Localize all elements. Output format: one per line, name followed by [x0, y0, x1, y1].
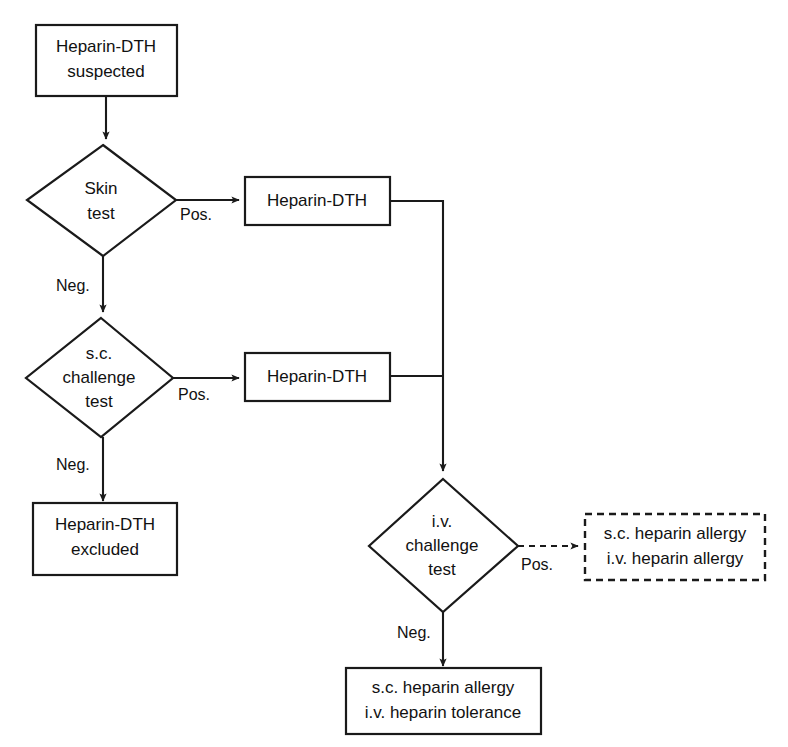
node-iv-challenge-test[interactable]: i.v. challenge test: [369, 479, 518, 612]
node-iv-pos-outcome[interactable]: s.c. heparin allergy i.v. heparin allerg…: [585, 514, 765, 580]
iv-challenge-label-line1: i.v.: [432, 512, 452, 531]
edge-dth1-to-trunk: [390, 201, 443, 375]
edge-label-iv-challenge-neg: Neg.: [397, 624, 431, 641]
start-label-line2: suspected: [67, 62, 145, 81]
edge-label-sc-challenge-neg: Neg.: [56, 456, 90, 473]
iv-neg-outcome-label-line2: i.v. heparin tolerance: [365, 703, 522, 722]
edge-label-iv-challenge-pos: Pos.: [521, 556, 553, 573]
iv-pos-outcome-label-line1: s.c. heparin allergy: [604, 524, 747, 543]
flowchart-graphic: Heparin-DTH suspected Skin test Heparin-…: [0, 0, 788, 747]
iv-neg-outcome-label-line1: s.c. heparin allergy: [372, 678, 515, 697]
skin-test-label-line1: Skin: [84, 179, 117, 198]
node-iv-neg-outcome[interactable]: s.c. heparin allergy i.v. heparin tolera…: [346, 668, 541, 734]
node-skin-pos-result[interactable]: Heparin-DTH: [245, 177, 390, 225]
iv-pos-outcome-label-line2: i.v. heparin allergy: [607, 549, 744, 568]
edge-dth2-to-iv-challenge: [390, 376, 443, 471]
node-sc-challenge-test[interactable]: s.c. challenge test: [26, 318, 173, 437]
sc-challenge-label-line3: test: [85, 392, 113, 411]
sc-pos-result-label: Heparin-DTH: [267, 367, 367, 386]
sc-challenge-label-line2: challenge: [63, 368, 136, 387]
edge-label-sc-challenge-pos: Pos.: [178, 386, 210, 403]
skin-test-diamond-shape: [27, 145, 176, 256]
node-start[interactable]: Heparin-DTH suspected: [36, 25, 177, 96]
node-skin-test[interactable]: Skin test: [27, 145, 176, 256]
skin-pos-result-label: Heparin-DTH: [267, 191, 367, 210]
node-excluded[interactable]: Heparin-DTH excluded: [33, 503, 177, 575]
edge-label-skin-test-pos: Pos.: [180, 206, 212, 223]
sc-challenge-label-line1: s.c.: [86, 344, 112, 363]
excluded-box-shape: [33, 503, 177, 575]
excluded-label-line2: excluded: [71, 540, 139, 559]
iv-challenge-label-line3: test: [428, 560, 456, 579]
skin-test-label-line2: test: [87, 204, 115, 223]
iv-challenge-label-line2: challenge: [406, 536, 479, 555]
flowchart-canvas: Heparin-DTH suspected Skin test Heparin-…: [0, 0, 788, 747]
excluded-label-line1: Heparin-DTH: [55, 515, 155, 534]
start-label-line1: Heparin-DTH: [56, 37, 156, 56]
edge-label-skin-test-neg: Neg.: [56, 277, 90, 294]
node-sc-pos-result[interactable]: Heparin-DTH: [245, 353, 390, 401]
start-box-shape: [36, 25, 177, 96]
